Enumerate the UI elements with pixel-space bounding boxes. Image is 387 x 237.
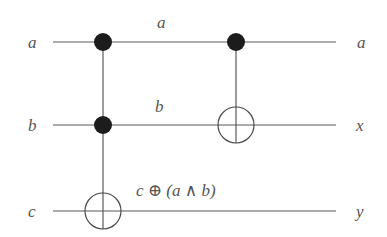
- circuit-diagram: a b c a b c ⊕ (a ∧ b) a x y: [0, 0, 387, 237]
- mid-label-c: c ⊕ (a ∧ b): [136, 181, 216, 200]
- input-label-b: b: [28, 116, 37, 135]
- output-label-y: y: [354, 202, 364, 221]
- input-label-a: a: [28, 33, 37, 52]
- output-label-x: x: [355, 116, 364, 135]
- control-dot-a-cnot: [227, 33, 245, 51]
- control-dot-b-toffoli: [94, 116, 112, 134]
- input-label-c: c: [28, 202, 36, 221]
- mid-label-a: a: [157, 13, 166, 32]
- control-dot-a-toffoli: [94, 33, 112, 51]
- mid-label-b: b: [155, 97, 164, 116]
- output-label-a: a: [357, 33, 366, 52]
